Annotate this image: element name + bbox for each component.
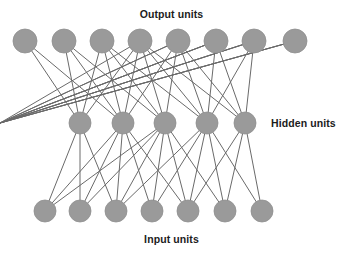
connection-line: [80, 123, 116, 211]
input-unit-node: [105, 200, 127, 222]
hidden-unit-node: [234, 112, 256, 134]
input-unit-node: [69, 200, 91, 222]
input-unit-node: [34, 200, 56, 222]
output-unit-node: [90, 29, 114, 53]
connection-line: [216, 41, 245, 123]
hidden-unit-node: [196, 112, 218, 134]
connection-line: [152, 123, 207, 211]
hidden-unit-node: [154, 112, 176, 134]
connection-line: [116, 123, 165, 211]
connection-line: [178, 41, 245, 123]
hidden-unit-node: [112, 112, 134, 134]
node-group-hidden-layer: [69, 112, 256, 134]
input-unit-node: [214, 200, 236, 222]
hidden-unit-node: [69, 112, 91, 134]
connection-line: [188, 123, 207, 211]
connection-line: [0, 41, 140, 123]
output-unit-node: [13, 29, 37, 53]
connection-line: [140, 41, 165, 123]
node-group-input-layer: [34, 200, 273, 222]
edge-group-input-to-hidden: [45, 123, 262, 211]
connection-line: [80, 41, 102, 123]
connection-line: [45, 123, 123, 211]
input-unit-node: [251, 200, 273, 222]
output-layer-label: Output units: [0, 8, 343, 20]
connection-line: [165, 123, 188, 211]
neural-network-diagram: Output units Hidden units Input units: [0, 0, 343, 254]
edge-group-hidden-to-output: [0, 41, 295, 123]
output-unit-node: [166, 29, 190, 53]
connection-line: [80, 123, 165, 211]
output-unit-node: [242, 29, 266, 53]
connection-line: [165, 41, 178, 123]
connection-line: [102, 41, 207, 123]
input-unit-node: [141, 200, 163, 222]
connection-line: [116, 123, 207, 211]
output-unit-node: [52, 29, 76, 53]
input-unit-node: [177, 200, 199, 222]
output-unit-node: [204, 29, 228, 53]
hidden-layer-label: Hidden units: [271, 117, 336, 129]
output-unit-node: [283, 29, 307, 53]
connection-line: [123, 123, 188, 211]
connection-line: [152, 123, 165, 211]
input-layer-label: Input units: [0, 233, 343, 245]
connection-line: [0, 41, 295, 123]
output-unit-node: [128, 29, 152, 53]
